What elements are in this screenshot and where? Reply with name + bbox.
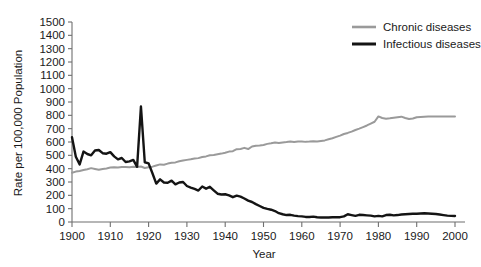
x-tick-label: 1940 <box>212 230 238 242</box>
x-tick-label: 1980 <box>366 230 392 242</box>
x-tick-label: 1910 <box>98 230 124 242</box>
y-tick-label: 1400 <box>39 29 65 41</box>
legend-label: Infectious diseases <box>383 38 481 50</box>
legend-label: Chronic diseases <box>383 21 471 33</box>
x-axis-title: Year <box>252 248 275 260</box>
y-tick-label: 200 <box>46 189 65 201</box>
y-tick-label: 1000 <box>39 83 65 95</box>
x-tick-label: 1970 <box>327 230 353 242</box>
x-tick-label: 1900 <box>59 230 85 242</box>
chart-page: 0100200300400500600700800900100011001200… <box>0 0 481 267</box>
x-tick-label: 1920 <box>136 230 162 242</box>
x-tick-label: 1960 <box>289 230 315 242</box>
y-tick-label: 1100 <box>40 69 65 81</box>
y-tick-label: 100 <box>46 203 65 215</box>
y-tick-label: 1300 <box>39 43 65 55</box>
y-tick-label: 1500 <box>39 16 65 28</box>
y-tick-label: 400 <box>46 163 65 175</box>
line-chart: 0100200300400500600700800900100011001200… <box>0 0 481 267</box>
x-tick-label: 1950 <box>251 230 277 242</box>
y-tick-label: 300 <box>46 176 65 188</box>
x-tick-label: 2000 <box>442 230 468 242</box>
y-tick-label: 700 <box>46 123 65 135</box>
x-tick-label: 1930 <box>174 230 200 242</box>
x-tick-label: 1990 <box>404 230 430 242</box>
y-tick-label: 800 <box>46 109 65 121</box>
y-tick-label: 500 <box>46 149 65 161</box>
y-axis-title: Rate per 100,000 Population <box>12 50 24 196</box>
y-tick-label: 900 <box>46 96 65 108</box>
y-tick-label: 1200 <box>39 56 65 68</box>
y-tick-label: 0 <box>59 216 65 228</box>
y-tick-label: 600 <box>46 136 65 148</box>
